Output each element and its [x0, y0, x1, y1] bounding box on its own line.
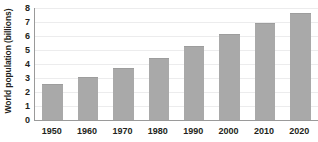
y-axis-tick-label: 6 — [25, 32, 30, 41]
y-axis-tick-labels: 012345678 — [16, 0, 33, 122]
y-axis-tick-label: 3 — [25, 74, 30, 83]
x-axis-tick-label: 1960 — [69, 124, 104, 140]
y-axis-tick-label: 4 — [25, 60, 30, 69]
x-axis-tick-labels: 19501960197019801990200020102020 — [34, 124, 317, 140]
bar-slot — [141, 8, 176, 120]
y-axis-tick-label: 2 — [25, 88, 30, 97]
bar — [113, 68, 134, 120]
bar-slot — [212, 8, 247, 120]
y-axis-tick-label: 0 — [25, 116, 30, 125]
bar-slot — [283, 8, 318, 120]
y-axis-tick-label: 8 — [25, 4, 30, 13]
x-axis-tick-label: 1970 — [105, 124, 140, 140]
y-axis-tick-label: 7 — [25, 18, 30, 27]
x-axis-tick-label: 2020 — [282, 124, 317, 140]
bar-slot — [247, 8, 282, 120]
bar-slot — [177, 8, 212, 120]
bar-slot — [70, 8, 105, 120]
bar-chart-figure: World population (billions) 012345678 19… — [0, 0, 318, 142]
bars-layer — [35, 8, 318, 120]
y-axis-tick-label: 1 — [25, 102, 30, 111]
bar — [78, 77, 99, 120]
bar — [42, 84, 63, 120]
y-axis-tick-label: 5 — [25, 46, 30, 55]
x-axis-tick-label: 1980 — [140, 124, 175, 140]
x-axis-tick-label: 2000 — [211, 124, 246, 140]
x-axis-tick-label: 1990 — [176, 124, 211, 140]
bar — [255, 23, 276, 120]
y-axis-title-label: World population (billions) — [3, 9, 13, 114]
x-axis-tick-label: 1950 — [34, 124, 69, 140]
plot-area — [34, 8, 318, 121]
x-axis-tick-label: 2010 — [246, 124, 281, 140]
bar — [290, 13, 311, 120]
bar — [184, 46, 205, 120]
y-axis-title: World population (billions) — [0, 0, 16, 122]
bar — [149, 58, 170, 120]
bar-slot — [106, 8, 141, 120]
bar — [219, 34, 240, 120]
bar-slot — [35, 8, 70, 120]
